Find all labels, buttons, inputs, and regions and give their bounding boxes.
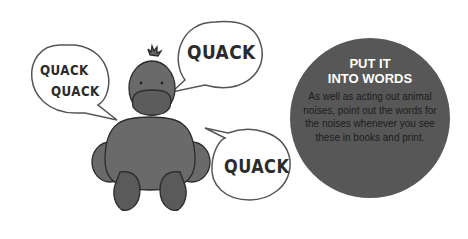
tip-body: As well as acting out animal noises, poi… bbox=[300, 90, 440, 144]
tip-title: PUT IT INTO WORDS bbox=[290, 56, 450, 86]
tip-title-line1: PUT IT bbox=[290, 56, 450, 71]
quack-text-1: QUACK bbox=[40, 62, 89, 78]
quack-text-2: QUACK bbox=[51, 83, 100, 99]
quack-text-right: QUACK bbox=[224, 155, 289, 177]
tip-title-line2: INTO WORDS bbox=[290, 71, 450, 86]
quack-text-top: QUACK bbox=[187, 40, 256, 64]
